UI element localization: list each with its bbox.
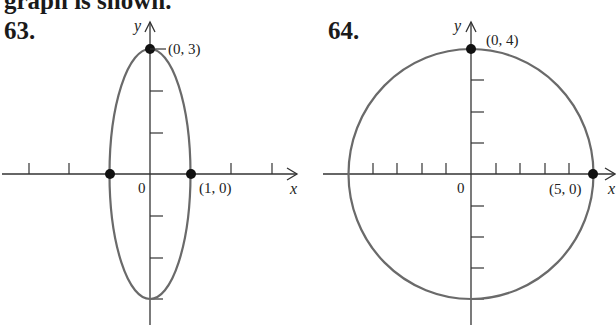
figure-canvas: y (0, 3) 0 (1, 0) x [0, 0, 616, 325]
x-axis-label-63: x [289, 180, 297, 197]
point-0-4 [466, 44, 476, 54]
point-5-0 [588, 169, 598, 179]
y-axis-label-63: y [132, 17, 142, 35]
x-axis-label-64: x [607, 180, 615, 197]
y-axis-label-64: y [452, 17, 462, 35]
graph-63: y (0, 3) 0 (1, 0) x [2, 17, 297, 325]
point-1-0 [186, 169, 196, 179]
y-ticks-63 [150, 91, 163, 299]
origin-label-63: 0 [138, 180, 146, 196]
origin-label-64: 0 [457, 180, 465, 196]
point-label-5-0: (5, 0) [549, 181, 582, 198]
y-ticks-64 [471, 80, 484, 299]
point-label-0-3: (0, 3) [168, 41, 201, 58]
point-label-0-4: (0, 4) [486, 32, 519, 49]
graph-64: y (0, 4) 0 (5, 0) x [323, 17, 615, 325]
point-label-1-0: (1, 0) [199, 180, 232, 197]
point-neg1-0 [105, 169, 115, 179]
